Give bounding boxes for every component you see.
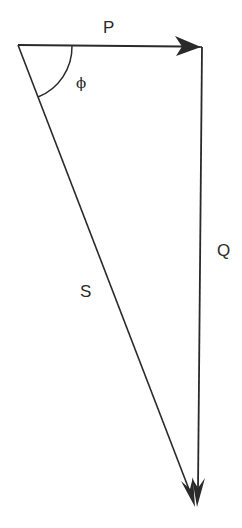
q-label: Q [217, 242, 230, 259]
phi-label: ϕ [76, 76, 86, 91]
p-vector-line [18, 45, 182, 47]
p-label: P [103, 19, 114, 36]
power-triangle-diagram [0, 0, 242, 528]
s-vector-line [18, 45, 190, 492]
s-label: S [80, 283, 91, 300]
phi-angle-arc [38, 46, 72, 97]
s-arrowhead-icon [181, 477, 195, 507]
q-vector-line [198, 47, 202, 490]
